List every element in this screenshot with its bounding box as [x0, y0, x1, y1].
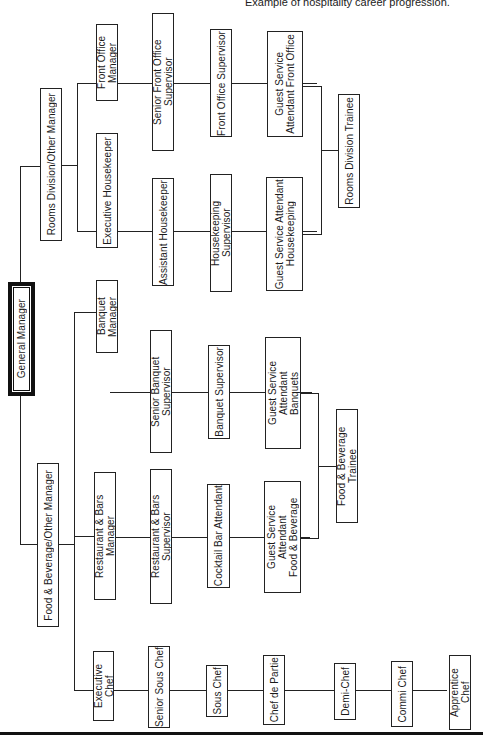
node-chef-de-partie: Chef de Partie [263, 655, 285, 725]
node-senior-sous-chef: Senior Sous Chef [148, 646, 170, 728]
node-label: Cocktail Bar Attendant [213, 485, 224, 586]
connector [20, 394, 21, 545]
node-executive-chef: Executive Chef [93, 651, 114, 721]
connector [77, 83, 97, 84]
connector [110, 392, 120, 393]
node-assistant-housekeeper: Assistant Housekeeper [152, 178, 174, 286]
node-housekeeping-supervisor: Housekeeping Supervisor [210, 174, 232, 292]
node-gsa-banquets: Guest Service Attendant Banquets [265, 337, 301, 449]
node-restaurant-bars-manager: Restaurant & Bars Manager [94, 472, 116, 600]
connector [61, 165, 78, 166]
node-label: Demi-Chef [340, 667, 351, 716]
node-label: Restaurant & Bars Manager [94, 473, 116, 599]
node-label: Housekeeping Supervisor [210, 175, 232, 291]
node-sous-chef: Sous Chef [206, 665, 228, 717]
node-label: Front Office Supervisor [216, 31, 227, 136]
node-demi-chef: Demi-Chef [334, 663, 356, 720]
connector [77, 83, 78, 232]
bottom-rule [0, 732, 483, 735]
connector [74, 312, 97, 313]
node-label: Guest Service Attendant Housekeeping [274, 179, 296, 289]
node-rooms-division-trainee: Rooms Division Trainee [338, 94, 360, 208]
connector [321, 86, 322, 235]
node-label: Front Office Manager [96, 25, 118, 100]
node-label: Assistant Housekeeper [158, 180, 169, 285]
node-gsa-front-office: Guest Service Attendant Front Office [267, 31, 303, 137]
node-cocktail-bar-attendant: Cocktail Bar Attendant [207, 484, 230, 588]
node-label: Senior Banquet Supervisor [150, 331, 172, 452]
node-front-office-manager: Front Office Manager [96, 24, 118, 101]
connector [303, 86, 322, 87]
node-label: Guest Service Attendant Banquets [267, 338, 300, 448]
node-front-office-supervisor: Front Office Supervisor [210, 29, 232, 137]
node-label: Executive Chef [93, 652, 115, 720]
node-executive-housekeeper: Executive Housekeeper [96, 133, 118, 248]
connector [74, 312, 75, 691]
node-banquet-manager: Banquet Manager [96, 280, 118, 353]
node-label: Guest Service Attendant Food & Beverage [266, 482, 299, 592]
connector [77, 231, 97, 232]
connector [74, 536, 95, 537]
connector [321, 150, 339, 151]
node-fb-manager: Food & Beverage/Other Manager [37, 463, 59, 627]
node-label: Senior Sous Chef [154, 647, 165, 727]
node-rooms-division-manager: Rooms Division/Other Manager [40, 88, 62, 241]
node-label: Rooms Division Trainee [344, 97, 355, 205]
node-label: Banquet Supervisor [214, 347, 225, 437]
node-label: Guest Service Attendant Front Office [274, 34, 296, 134]
node-label: Chef de Partie [269, 657, 280, 722]
node-label: Apprentice Chef [449, 656, 471, 729]
node-gsa-food-beverage: Guest Service Attendant Food & Beverage [264, 481, 301, 593]
node-commi-chef: Commi Chef [391, 661, 413, 727]
connector [300, 538, 319, 539]
figure-caption: Example of hospitality career progressio… [245, 0, 450, 8]
connector [58, 544, 75, 545]
node-label: Rooms Division/Other Manager [46, 93, 57, 235]
node-label: Banquet Manager [96, 281, 118, 352]
node-label: Food & Beverage Trainee [336, 410, 358, 522]
node-gsa-housekeeping: Guest Service Attendant Housekeeping [266, 177, 303, 291]
node-label: Commi Chef [397, 666, 408, 723]
connector [74, 690, 95, 691]
node-label: Restaurant & Bars Supervisor [150, 470, 172, 603]
node-senior-banquet-supervisor: Senior Banquet Supervisor [150, 330, 172, 453]
connector [300, 393, 319, 394]
node-banquet-supervisor: Banquet Supervisor [208, 345, 230, 439]
node-fb-trainee: Food & Beverage Trainee [336, 409, 358, 523]
node-senior-front-office-supervisor: Senior Front Office Supervisor [152, 13, 174, 151]
node-label: Sous Chef [212, 667, 223, 715]
connector [318, 466, 336, 467]
node-general-manager: General Manager [8, 282, 35, 396]
connector [20, 166, 41, 167]
connector [20, 544, 38, 545]
node-label: Food & Beverage/Other Manager [43, 470, 54, 621]
node-apprentice-chef: Apprentice Chef [449, 655, 471, 730]
node-label: Senior Front Office Supervisor [152, 14, 174, 150]
connector [303, 234, 322, 235]
connector [20, 166, 21, 283]
node-label: General Manager [16, 299, 27, 378]
node-restaurant-bars-supervisor: Restaurant & Bars Supervisor [150, 469, 172, 604]
node-label: Executive Housekeeper [102, 137, 113, 245]
